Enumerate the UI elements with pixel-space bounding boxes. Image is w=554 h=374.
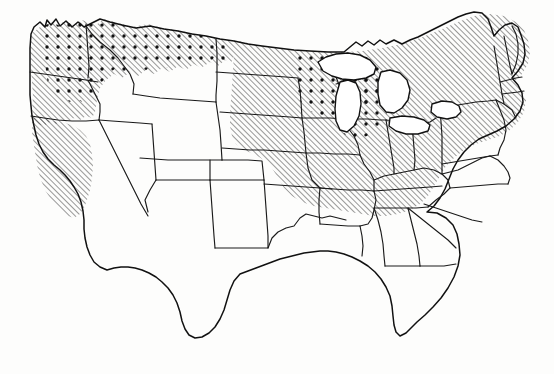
us-map-svg xyxy=(0,0,554,374)
us-distribution-map-figure xyxy=(0,0,554,374)
